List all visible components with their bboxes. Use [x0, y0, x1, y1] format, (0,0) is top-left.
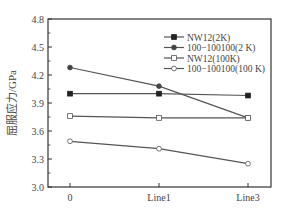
y-axis-ticks: 3.03.33.63.94.24.54.8 — [32, 14, 53, 193]
legend-item: NW12(100K) — [164, 54, 240, 65]
x-tick-label: Line3 — [236, 192, 259, 203]
legend-label: NW12(100K) — [187, 54, 240, 65]
y-tick-label: 3.6 — [32, 126, 45, 137]
x-tick-label: Line1 — [147, 192, 170, 203]
y-tick-label: 3.9 — [32, 98, 45, 109]
y-tick-label: 4.5 — [32, 42, 45, 53]
series-layer — [68, 65, 251, 166]
series-3 — [68, 139, 251, 166]
y-tick-label: 3.3 — [32, 154, 45, 165]
series-0 — [68, 91, 251, 98]
legend: NW12(2K)100−100100(2 K)NW12(100K)100−100… — [164, 33, 265, 76]
legend-label: NW12(2K) — [187, 33, 230, 44]
legend-item: NW12(2K) — [164, 33, 230, 44]
y-axis-label: 屈服应力/GPa — [5, 70, 18, 136]
y-tick-label: 3.0 — [32, 182, 45, 193]
legend-label: 100−100100(100 K) — [187, 64, 265, 75]
y-tick-label: 4.8 — [32, 14, 45, 25]
yield-stress-line-chart: 3.03.33.63.94.24.54.8 0Line1Line3 NW12(2… — [0, 0, 285, 213]
series-2 — [68, 114, 251, 121]
x-axis-ticks: 0Line1Line3 — [68, 183, 260, 203]
legend-item: 100−100100(100 K) — [164, 64, 265, 75]
y-tick-label: 4.2 — [32, 70, 45, 81]
x-tick-label: 0 — [68, 192, 73, 203]
legend-item: 100−100100(2 K) — [164, 43, 255, 54]
legend-label: 100−100100(2 K) — [187, 43, 255, 54]
